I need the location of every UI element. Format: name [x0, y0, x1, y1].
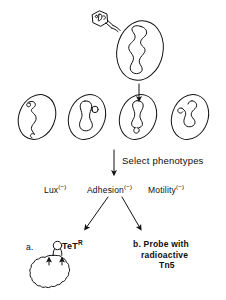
- mutant-cell-3: [113, 89, 163, 145]
- recipient-cell-with-chromosome: [111, 16, 168, 84]
- branch-b-line1: Probe with: [144, 239, 189, 249]
- phenotype-label-adhesion: Adhesion(−): [87, 183, 132, 195]
- branch-b-label: b. Probe with radioactive Tn5: [133, 239, 189, 271]
- branch-a-superscript: R: [78, 239, 83, 246]
- branch-b-line3: Tn5: [133, 260, 189, 271]
- phenotype-lux-superscript: (−): [58, 183, 66, 190]
- phenotype-motility-name: Motility: [148, 185, 176, 195]
- branch-a-text: TeT: [62, 241, 78, 251]
- mutant-cell-1: [12, 89, 63, 145]
- phenotype-adhesion-name: Adhesion: [87, 185, 124, 195]
- branch-b-marker: b.: [133, 239, 141, 249]
- phenotype-label-lux: Lux(−): [44, 183, 67, 195]
- branch-a-label: TeTR: [62, 239, 83, 251]
- phenotype-motility-superscript: (−): [176, 183, 184, 190]
- figure-canvas: [0, 0, 226, 300]
- mutant-cell-4: [165, 89, 215, 145]
- step-select-phenotypes-label: Select phenotypes: [122, 155, 204, 166]
- branch-b-line2: radioactive: [133, 250, 189, 261]
- mutant-cell-2: [62, 89, 112, 145]
- branch-a-marker: a.: [26, 242, 34, 252]
- phenotype-label-motility: Motility(−): [148, 183, 184, 195]
- arrow-down-left-to-branch-a: [86, 197, 108, 228]
- transposon-delivery-vector: [93, 11, 121, 32]
- arrow-down-right-to-branch-b: [122, 197, 140, 228]
- phenotype-lux-name: Lux: [44, 185, 58, 195]
- phenotype-adhesion-superscript: (−): [124, 183, 132, 190]
